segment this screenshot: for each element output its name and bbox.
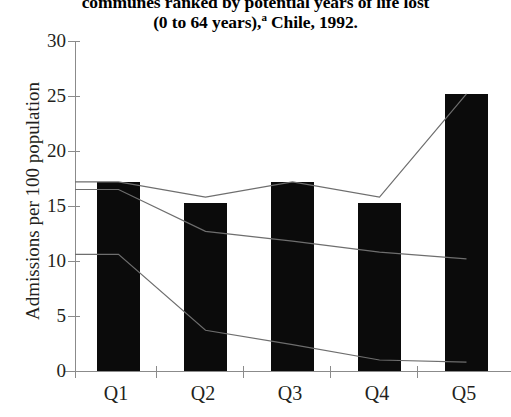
line-series-overlay [0, 0, 511, 417]
chart-figure: communes ranked by potential years of li… [0, 0, 511, 417]
line-series-upper [75, 94, 467, 197]
line-series-middle [75, 190, 467, 259]
line-series-lower [75, 254, 467, 362]
